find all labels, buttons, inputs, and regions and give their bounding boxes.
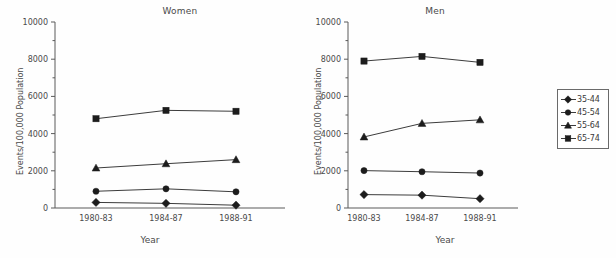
y-axis-label-men: Events/100,000 Population [314,68,323,175]
triangle-marker-icon [561,120,577,131]
svg-text:1980-83: 1980-83 [347,214,380,223]
legend-label: 35-44 [577,95,600,104]
svg-text:0: 0 [43,204,48,213]
legend-item-35-44: 35-44 [561,93,606,106]
svg-text:4000: 4000 [321,130,341,139]
svg-text:2000: 2000 [321,167,341,176]
svg-text:0: 0 [336,204,341,213]
panel-women: Women 02000400060008000100001980-831984-… [0,0,300,258]
svg-text:6000: 6000 [321,92,341,101]
panel-men: Men 02000400060008000100001980-831984-87… [300,0,550,258]
svg-text:1988-91: 1988-91 [463,214,496,223]
legend-item-65-74: 65-74 [561,132,606,145]
legend-label: 65-74 [577,134,600,143]
legend-item-55-64: 55-64 [561,119,606,132]
svg-text:1984-87: 1984-87 [405,214,438,223]
diamond-marker-icon [561,94,577,105]
svg-text:1984-87: 1984-87 [149,214,182,223]
legend-item-45-54: 45-54 [561,106,606,119]
plot-area-men: 02000400060008000100001980-831984-871988… [300,0,550,258]
x-axis-label-men: Year [355,235,535,245]
svg-text:10000: 10000 [23,18,48,27]
svg-text:4000: 4000 [28,130,48,139]
svg-text:2000: 2000 [28,167,48,176]
x-axis-label-women: Year [60,235,240,245]
svg-text:10000: 10000 [316,18,341,27]
plot-area-women: 02000400060008000100001980-831984-871988… [0,0,300,258]
figure-two-panel-line-chart: Women 02000400060008000100001980-831984-… [0,0,616,258]
svg-text:1980-83: 1980-83 [79,214,112,223]
legend: 35-4445-5455-6465-74 [557,89,609,149]
svg-text:1988-91: 1988-91 [219,214,252,223]
svg-text:6000: 6000 [28,92,48,101]
circle-marker-icon [561,107,577,118]
svg-text:8000: 8000 [28,55,48,64]
legend-label: 45-54 [577,108,600,117]
square-marker-icon [561,133,577,144]
legend-label: 55-64 [577,121,600,130]
y-axis-label-women: Events/100,000 Population [16,68,25,175]
svg-text:8000: 8000 [321,55,341,64]
